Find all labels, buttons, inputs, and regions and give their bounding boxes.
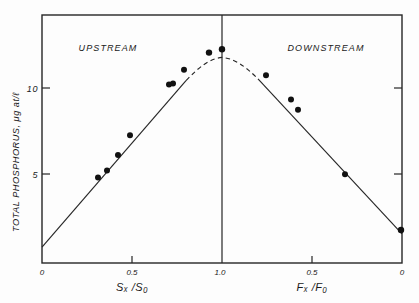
data-point: [115, 152, 121, 158]
x-left-tick-label-0: 0: [40, 268, 45, 277]
data-point: [206, 49, 212, 55]
data-point: [170, 81, 176, 87]
x-axis-title-left: Sₓ /S₀: [116, 281, 148, 293]
data-point: [295, 107, 301, 113]
data-point: [181, 67, 187, 73]
x-right-tick-label-0-5: 0.5: [306, 268, 318, 277]
y-tick-label-5: 5: [32, 170, 38, 180]
fit-line-downstream: [258, 79, 402, 234]
data-point: [219, 46, 225, 52]
x-right-tick-label-0: 0: [400, 268, 405, 277]
y-tick-label-10: 10: [27, 84, 38, 94]
data-point: [127, 132, 133, 138]
phosphorus-profile-chart: 10 5 TOTAL PHOSPHORUS, μg at/ℓ 0 0.5 1.0…: [0, 0, 419, 303]
y-axis-ticks-right: [394, 88, 402, 174]
data-point: [342, 171, 348, 177]
data-point: [95, 174, 101, 180]
upstream-annotation: UPSTREAM: [79, 43, 138, 53]
data-points-downstream: [263, 72, 404, 233]
x-axis-title-right: Fₓ /F₀: [297, 281, 328, 293]
fit-line-upstream: [42, 81, 186, 248]
x-left-tick-label-1-0: 1.0: [214, 268, 226, 277]
data-point: [288, 96, 294, 102]
x-left-tick-label-0-5: 0.5: [126, 268, 138, 277]
figure-container: 10 5 TOTAL PHOSPHORUS, μg at/ℓ 0 0.5 1.0…: [0, 0, 419, 303]
data-point: [263, 72, 269, 78]
downstream-annotation: DOWNSTREAM: [288, 43, 365, 53]
data-points-upstream: [95, 46, 225, 180]
y-axis-ticks-left: [42, 88, 50, 174]
y-axis-title: TOTAL PHOSPHORUS, μg at/ℓ: [11, 92, 21, 232]
data-point: [398, 227, 404, 233]
data-point: [104, 168, 110, 174]
